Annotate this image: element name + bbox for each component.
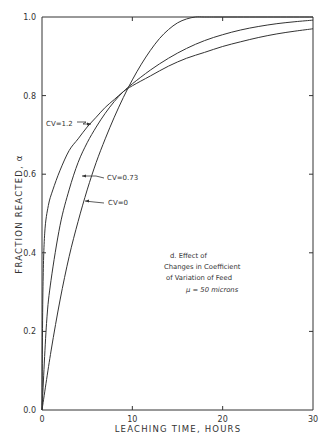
data-curves bbox=[42, 17, 313, 410]
curve-cv-0 bbox=[42, 17, 313, 410]
y-axis-title: FRACTION REACTED, α bbox=[14, 154, 24, 273]
y-tick-label: 0.6 bbox=[23, 170, 36, 179]
line-chart: 0.00.20.40.60.81.0 0102030 LEACHING TIME… bbox=[0, 0, 326, 444]
x-tick-label: 0 bbox=[39, 415, 44, 424]
y-axis-ticks: 0.00.20.40.60.81.0 bbox=[23, 13, 313, 415]
x-tick-label: 20 bbox=[218, 415, 228, 424]
label-cv-1.2-text: CV=1.2 bbox=[46, 120, 73, 128]
y-tick-label: 0.8 bbox=[23, 92, 36, 101]
arrowhead-icon bbox=[85, 200, 89, 203]
annotation-line-3: of Variation of Feed bbox=[166, 274, 232, 282]
x-tick-label: 30 bbox=[308, 415, 318, 424]
curve-cv-1.2 bbox=[42, 29, 313, 410]
annotation-line-2: Changes in Coefficient bbox=[164, 263, 241, 271]
label-cv-0: CV=0 bbox=[85, 199, 128, 207]
y-tick-label: 1.0 bbox=[23, 13, 36, 22]
x-tick-label: 10 bbox=[127, 415, 137, 424]
arrowhead-icon bbox=[82, 175, 86, 178]
y-tick-label: 0.4 bbox=[23, 249, 36, 258]
curve-cv-0.73 bbox=[42, 20, 313, 410]
chart-annotation: d. Effect of Changes in Coefficient of V… bbox=[164, 252, 241, 294]
x-axis-ticks: 0102030 bbox=[39, 17, 318, 424]
label-cv-0-text: CV=0 bbox=[108, 199, 128, 207]
y-tick-label: 0.2 bbox=[23, 327, 36, 336]
x-axis-title: LEACHING TIME, HOURS bbox=[115, 424, 242, 434]
plot-frame bbox=[42, 17, 313, 410]
annotation-line-4: μ = 50 microns bbox=[185, 286, 239, 294]
annotation-line-1: d. Effect of bbox=[170, 252, 208, 260]
y-tick-label: 0.0 bbox=[23, 406, 36, 415]
label-cv-1.2: CV=1.2 bbox=[46, 120, 91, 128]
label-cv-0.73-text: CV=0.73 bbox=[107, 174, 138, 182]
